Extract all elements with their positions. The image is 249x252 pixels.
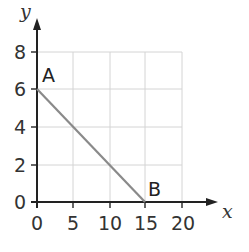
y-tick-0: 0 (14, 191, 26, 213)
y-tick-6: 6 (14, 78, 26, 100)
line-segment-ab (37, 89, 145, 202)
x-axis-arrow-icon (206, 198, 218, 206)
y-tick-4: 4 (14, 116, 26, 138)
x-axis-label: x (222, 200, 233, 222)
y-axis-label: y (19, 0, 31, 22)
x-tick-5: 5 (67, 212, 79, 234)
point-b-label: B (148, 178, 161, 200)
y-axis-arrow-icon (33, 18, 41, 30)
line-chart: 0 5 10 15 20 0 2 4 6 8 y x A B (0, 0, 249, 252)
y-tick-8: 8 (14, 41, 26, 63)
y-tick-2: 2 (14, 154, 26, 176)
x-tick-10: 10 (98, 212, 122, 234)
x-tick-15: 15 (134, 212, 158, 234)
x-tick-0: 0 (31, 212, 43, 234)
x-tick-20: 20 (171, 212, 195, 234)
point-a-label: A (42, 64, 55, 86)
